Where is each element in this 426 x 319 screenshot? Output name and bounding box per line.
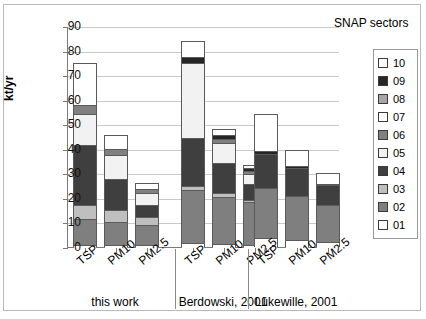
y-axis-title: kt/yr: [2, 76, 16, 101]
y-tick-label-10: 10: [41, 216, 81, 228]
bar-segment-snap-05: [105, 156, 127, 181]
group-label-2: Lükewille, 2001: [241, 295, 351, 309]
bar-berdowski-2001-TSP[interactable]: [181, 41, 205, 247]
legend-swatch-icon-06: [378, 130, 388, 140]
legend-swatch-icon-10: [378, 58, 388, 68]
plot-area: [67, 27, 338, 248]
legend-label: 09: [393, 76, 405, 87]
bar-segment-snap-05: [182, 64, 204, 139]
y-tick-label-90: 90: [41, 20, 81, 32]
bar-segment-snap-04: [213, 164, 235, 193]
bar-segment-snap-02: [317, 206, 339, 243]
bar-l-kewille-2001-PM10[interactable]: [285, 150, 309, 247]
legend-label: 07: [393, 112, 405, 123]
bar-segment-snap-04: [136, 206, 158, 218]
bar-segment-snap-04: [286, 169, 308, 197]
legend-item-snap-07[interactable]: 07: [378, 108, 414, 126]
y-tick-label-80: 80: [41, 45, 81, 57]
chart-frame: kt/yr SNAP sectors TSPPM10PM2.5TSPPM10PM…: [3, 4, 421, 311]
bar-segment-snap-04: [255, 155, 277, 189]
bar-segment-snap-04: [317, 186, 339, 206]
legend: 10090807060504030201: [373, 49, 418, 239]
y-tick-label-50: 50: [41, 118, 81, 130]
legend-label: 01: [393, 220, 405, 231]
legend-label: 04: [393, 166, 405, 177]
legend-item-snap-04[interactable]: 04: [378, 162, 414, 180]
y-tick-label-60: 60: [41, 94, 81, 106]
legend-item-snap-05[interactable]: 05: [378, 144, 414, 162]
legend-swatch-icon-04: [378, 166, 388, 176]
legend-swatch-icon-09: [378, 76, 388, 86]
bar-segment-snap-02: [255, 189, 277, 239]
group-label-0: this work: [60, 295, 170, 309]
bar-this-work-PM2_5[interactable]: [135, 183, 159, 247]
bar-segment-snap-05: [213, 144, 235, 165]
bar-berdowski-2001-PM10[interactable]: [212, 129, 236, 247]
legend-title: SNAP sectors: [334, 16, 408, 30]
y-tick-label-40: 40: [41, 143, 81, 155]
legend-label: 08: [393, 94, 405, 105]
legend-item-snap-03[interactable]: 03: [378, 180, 414, 198]
bar-segment-snap-05: [136, 194, 158, 206]
bar-segment-snap-10: [255, 115, 277, 152]
bar-l-kewille-2001-PM2_5[interactable]: [316, 173, 340, 247]
legend-label: 10: [393, 58, 405, 69]
bar-segment-snap-03: [136, 218, 158, 225]
bar-segment-snap-04: [105, 180, 127, 211]
bar-segment-snap-02: [213, 198, 235, 245]
gridline-90: [68, 27, 339, 28]
legend-label: 02: [393, 202, 405, 213]
legend-item-snap-02[interactable]: 02: [378, 198, 414, 216]
group-separator-1: [248, 249, 249, 309]
y-tick-label-20: 20: [41, 192, 81, 204]
bar-segment-snap-10: [317, 174, 339, 185]
bar-segment-snap-06: [74, 106, 96, 116]
legend-swatch-icon-02: [378, 202, 388, 212]
legend-item-snap-10[interactable]: 10: [378, 54, 414, 72]
legend-swatch-icon-05: [378, 148, 388, 158]
legend-label: 03: [393, 184, 405, 195]
y-tick-label-70: 70: [41, 69, 81, 81]
bar-segment-snap-02: [182, 191, 204, 244]
legend-swatch-icon-01: [378, 220, 388, 230]
bar-segment-snap-10: [182, 42, 204, 58]
legend-label: 06: [393, 130, 405, 141]
legend-item-snap-09[interactable]: 09: [378, 72, 414, 90]
legend-swatch-icon-03: [378, 184, 388, 194]
bar-this-work-PM10[interactable]: [104, 135, 128, 247]
y-tick-label-30: 30: [41, 167, 81, 179]
bar-l-kewille-2001-TSP[interactable]: [254, 114, 278, 247]
bar-segment-snap-10: [286, 151, 308, 167]
y-tick-label-0: 0: [41, 241, 81, 253]
legend-swatch-icon-07: [378, 112, 388, 122]
legend-item-snap-06[interactable]: 06: [378, 126, 414, 144]
bar-segment-snap-07: [105, 136, 127, 150]
legend-item-snap-08[interactable]: 08: [378, 90, 414, 108]
bar-segment-snap-03: [105, 211, 127, 223]
legend-item-snap-01[interactable]: 01: [378, 216, 414, 234]
legend-label: 05: [393, 148, 405, 159]
bar-segment-snap-02: [286, 197, 308, 241]
legend-swatch-icon-08: [378, 94, 388, 104]
group-separator-0: [175, 249, 176, 309]
bar-segment-snap-04: [182, 139, 204, 187]
